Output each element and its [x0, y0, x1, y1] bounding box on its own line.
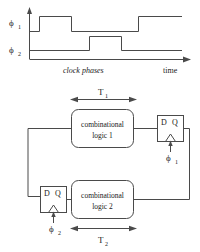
T1-label: T — [98, 87, 104, 97]
timing-diagram: ϕ 1 ϕ 2 clock phases time — [9, 7, 191, 75]
figure-svg: ϕ 1 ϕ 2 clock phases time T 1 — [0, 0, 200, 252]
time-axis-label: time — [163, 66, 178, 75]
timing-x-axis — [30, 57, 192, 63]
dimension-T2: T 2 — [70, 226, 137, 247]
circuit-diagram: T 1 combinational logic 1 D Q — [28, 87, 190, 247]
ff2-clock-label: ϕ — [49, 224, 54, 234]
ff2-d-label: D — [44, 189, 50, 198]
phi1-waveform — [30, 17, 183, 32]
phi2-symbol: ϕ — [9, 45, 14, 55]
logic2-line2: logic 2 — [92, 202, 113, 211]
logic2-line1: combinational — [81, 191, 124, 200]
T1-arrow-right — [129, 97, 137, 102]
ff2-clock-subscript: 2 — [58, 230, 61, 236]
ff1-q-label: Q — [172, 118, 178, 127]
combinational-logic-1: combinational logic 1 — [72, 110, 134, 148]
T2-subscript: 2 — [105, 241, 108, 247]
timing-y-axis — [27, 7, 32, 59]
phi2-subscript: 2 — [18, 51, 21, 57]
phi1-label: ϕ 1 — [9, 18, 21, 30]
ff1-clock-label: ϕ — [166, 153, 171, 163]
logic1-box — [72, 110, 134, 148]
dimension-T1: T 1 — [70, 87, 137, 102]
ff2-q-label: Q — [55, 189, 61, 198]
T1-subscript: 1 — [105, 93, 108, 99]
phi2-label: ϕ 2 — [9, 45, 21, 57]
combinational-logic-2: combinational logic 2 — [72, 181, 134, 219]
phi1-subscript: 1 — [18, 24, 21, 30]
logic1-line2: logic 1 — [92, 131, 113, 140]
logic1-line1: combinational — [81, 120, 124, 129]
phi1-symbol: ϕ — [9, 18, 14, 28]
ff1-clock-subscript: 1 — [175, 159, 178, 165]
figure-root: ϕ 1 ϕ 2 clock phases time T 1 — [0, 0, 200, 252]
flipflop-2: D Q ϕ 2 — [41, 187, 67, 236]
logic2-box — [72, 181, 134, 219]
T2-arrow-left — [70, 226, 78, 231]
T2-label: T — [98, 235, 104, 245]
y-axis-arrowhead — [27, 7, 32, 14]
ff1-d-label: D — [161, 118, 167, 127]
T2-arrow-right — [129, 226, 137, 231]
clock-phases-caption: clock phases — [63, 66, 104, 75]
phi2-waveform — [30, 37, 183, 51]
flipflop-1: D Q ϕ 1 — [158, 116, 184, 165]
T1-arrow-left — [70, 97, 78, 102]
time-axis-arrowhead — [183, 57, 191, 63]
